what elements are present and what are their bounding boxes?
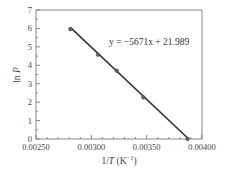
x-tick-label: 0.00400: [188, 142, 216, 152]
data-point: [96, 53, 100, 57]
x-tick-label: 0.00250: [22, 142, 50, 152]
y-axis-label: ln P: [12, 67, 22, 83]
trendline-equation: y = −5671x + 21.989: [109, 37, 189, 47]
plot-frame: [36, 10, 202, 139]
data-point: [142, 96, 146, 100]
data-point: [115, 69, 119, 73]
y-tick-label: 2: [28, 97, 32, 107]
data-point: [69, 27, 73, 31]
chart: 012345670.002500.003000.003500.00400 y =…: [0, 0, 229, 178]
y-tick-label: 7: [28, 5, 32, 15]
x-axis-label: 1/T (K−1): [101, 154, 136, 167]
y-tick-label: 4: [28, 60, 33, 70]
y-tick-label: 5: [28, 42, 32, 52]
y-tick-label: 3: [28, 79, 32, 89]
x-tick-label: 0.00300: [78, 142, 106, 152]
y-tick-label: 6: [28, 23, 32, 33]
y-tick-label: 1: [28, 116, 32, 126]
data-point: [186, 137, 190, 141]
x-tick-label: 0.00350: [133, 142, 161, 152]
